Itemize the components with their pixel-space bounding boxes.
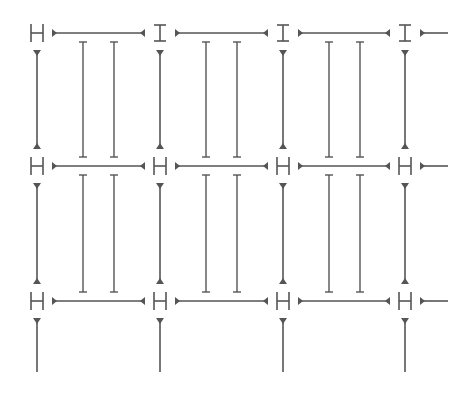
i-node-icon (277, 25, 289, 41)
arrow-up-icon (33, 143, 41, 149)
arrow-left-icon (140, 29, 145, 37)
node-grid-diagram (0, 0, 472, 399)
arrow-up-icon (279, 278, 287, 284)
arrow-left-icon (263, 297, 268, 305)
arrow-left-icon (263, 29, 268, 37)
arrow-up-icon (279, 143, 287, 149)
h-node-icon (399, 157, 411, 175)
arrow-left-icon (140, 162, 145, 170)
h-node-icon (277, 292, 289, 310)
arrow-up-icon (156, 143, 164, 149)
h-node-icon (154, 157, 166, 175)
i-node-icon (154, 25, 166, 41)
arrow-up-icon (401, 143, 409, 149)
arrow-up-icon (401, 278, 409, 284)
arrow-left-icon (140, 297, 145, 305)
arrow-left-icon (263, 162, 268, 170)
arrow-up-icon (33, 278, 41, 284)
h-node-icon (31, 157, 43, 175)
h-node-icon (277, 157, 289, 175)
arrow-up-icon (156, 278, 164, 284)
h-node-icon (399, 292, 411, 310)
h-node-icon (31, 292, 43, 310)
arrow-left-icon (385, 162, 390, 170)
h-node-icon (31, 24, 43, 42)
i-node-icon (399, 25, 411, 41)
h-node-icon (154, 292, 166, 310)
arrow-left-icon (385, 29, 390, 37)
arrow-left-icon (385, 297, 390, 305)
